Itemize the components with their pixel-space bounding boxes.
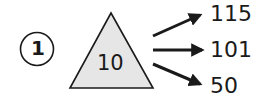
output-value-2: 101: [210, 39, 252, 61]
arrow-down-icon: [153, 64, 200, 84]
output-value-3: 50: [210, 75, 238, 97]
problem-number: 1: [31, 38, 45, 58]
arrow-up-icon: [153, 15, 200, 36]
center-value: 10: [97, 53, 124, 74]
output-value-1: 115: [210, 3, 252, 25]
